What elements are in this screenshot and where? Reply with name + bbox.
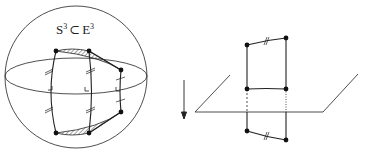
right-figure xyxy=(195,37,358,140)
edge-left xyxy=(51,51,56,133)
plane-outline xyxy=(195,74,358,112)
edge-middle xyxy=(89,51,92,133)
left-vertices xyxy=(54,49,124,136)
right-angle-marker xyxy=(85,87,89,91)
diagram-canvas: S3⊂E3 xyxy=(0,0,375,150)
edge-right xyxy=(120,70,121,112)
label-s3-subset-e3: S3⊂E3 xyxy=(56,22,94,37)
down-arrow-icon xyxy=(182,80,187,119)
equator-ellipse xyxy=(5,58,147,94)
middle-edge xyxy=(247,89,286,90)
